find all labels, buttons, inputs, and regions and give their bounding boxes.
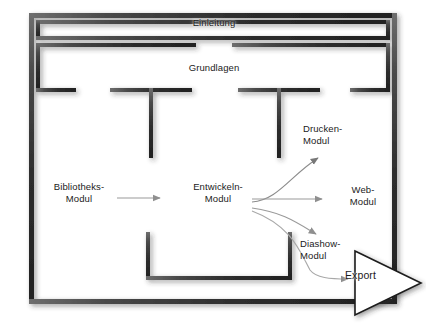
band-label-grundlagen: Grundlagen: [160, 62, 268, 74]
t-shape-left: [110, 88, 192, 158]
wall-stub-left: [36, 88, 76, 92]
wall-stub-right: [350, 88, 390, 92]
node-label-web-modul: Web- Modul: [333, 184, 393, 207]
node-label-diashow-modul: Diashow- Modul: [300, 238, 378, 261]
export-label: Export: [345, 270, 393, 282]
u-shape-bottom: [146, 232, 292, 280]
diagram-canvas: Einleitung Grundlagen Bibliotheks- Modul…: [0, 0, 426, 327]
node-label-drucken-modul: Drucken- Modul: [303, 123, 379, 146]
node-label-entwickeln-modul: Entwickeln- Modul: [172, 181, 264, 204]
node-label-bibliotheks-modul: Bibliotheks- Modul: [33, 181, 125, 204]
band-label-einleitung: Einleitung: [160, 17, 268, 29]
